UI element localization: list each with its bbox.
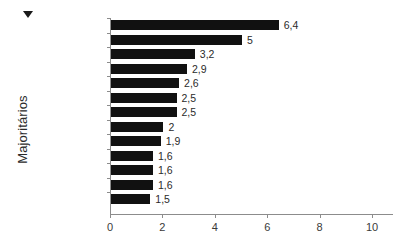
bar <box>111 165 153 175</box>
x-axis-tick-label: 10 <box>357 221 387 233</box>
x-axis-tick <box>372 214 373 218</box>
x-axis-tick <box>215 214 216 218</box>
x-axis-line <box>110 214 393 215</box>
bar <box>111 35 242 45</box>
bar <box>111 180 153 190</box>
bar-value-label: 1,5 <box>155 192 170 206</box>
y-axis-tick <box>107 163 110 164</box>
bar-chart: Majoritários Vanuatu6,4Índia5Canadá3,2Zâ… <box>0 0 406 244</box>
x-axis-tick-label: 0 <box>95 221 125 233</box>
y-axis-title: Majoritários <box>15 70 30 190</box>
y-axis-tick <box>107 149 110 150</box>
bar <box>111 49 195 59</box>
x-axis-tick <box>267 214 268 218</box>
bar-value-label: 5 <box>247 33 253 47</box>
bar-value-label: 1,6 <box>158 149 173 163</box>
bar <box>111 93 177 103</box>
x-axis-tick-label: 4 <box>200 221 230 233</box>
y-axis-tick <box>107 76 110 77</box>
bar-value-label: 6,4 <box>284 18 299 32</box>
bar-value-label: 1,9 <box>166 134 181 148</box>
y-axis-tick <box>107 178 110 179</box>
down-triangle-icon <box>23 11 33 18</box>
x-axis-tick <box>320 214 321 218</box>
bar-value-label: 2,5 <box>182 91 197 105</box>
x-axis-tick-label: 2 <box>147 221 177 233</box>
bar <box>111 151 153 161</box>
y-axis-tick <box>107 91 110 92</box>
bar <box>111 20 279 30</box>
y-axis-tick <box>107 33 110 34</box>
bar-value-label: 2,9 <box>192 62 207 76</box>
y-axis-tick <box>107 62 110 63</box>
y-axis-tick <box>107 18 110 19</box>
y-axis-tick <box>107 47 110 48</box>
bar <box>111 122 163 132</box>
bar <box>111 107 177 117</box>
bar-value-label: 2,5 <box>182 105 197 119</box>
plot-area: Vanuatu6,4Índia5Canadá3,2Zâmbia2,9Reino … <box>110 18 406 212</box>
x-axis-tick-label: 8 <box>305 221 335 233</box>
y-axis-tick <box>107 105 110 106</box>
x-axis-tick <box>110 214 111 218</box>
x-axis-tick-label: 6 <box>252 221 282 233</box>
bar <box>111 78 179 88</box>
bar-value-label: 2,6 <box>184 76 199 90</box>
bar-value-label: 1,6 <box>158 178 173 192</box>
y-axis-tick <box>107 134 110 135</box>
bar-value-label: 1,6 <box>158 163 173 177</box>
x-axis-tick <box>162 214 163 218</box>
bar-value-label: 2 <box>168 120 174 134</box>
y-axis-tick <box>107 120 110 121</box>
bar <box>111 64 187 74</box>
bar <box>111 136 161 146</box>
bar-value-label: 3,2 <box>200 47 215 61</box>
bar <box>111 194 150 204</box>
y-axis-tick <box>107 192 110 193</box>
